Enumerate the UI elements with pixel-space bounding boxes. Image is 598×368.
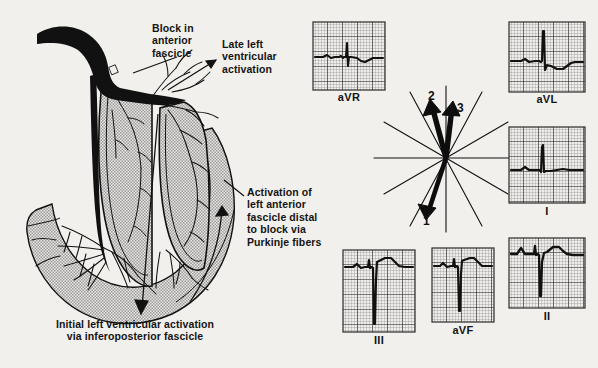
vector-label-3: 3 bbox=[457, 101, 464, 115]
ecg-panel-i bbox=[509, 127, 585, 203]
ecg-label-i: I bbox=[509, 205, 585, 217]
ventricular-cavities bbox=[99, 92, 209, 286]
ecg-label-ii: II bbox=[509, 310, 585, 322]
ecg-panel-iii bbox=[343, 250, 415, 332]
ecg-panel-avf bbox=[432, 248, 494, 322]
ecg-label-avl: aVL bbox=[509, 93, 585, 105]
ecg-panel-avr bbox=[313, 22, 385, 90]
annotation-initial-left-ventricular-activation: Initial left ventricular activation via … bbox=[56, 318, 214, 343]
leader-block bbox=[133, 57, 177, 73]
vector-diagram bbox=[368, 80, 528, 240]
figure-root: Block in anterior fascicle Late left ven… bbox=[0, 0, 598, 368]
ecg-panel-avl bbox=[509, 22, 585, 92]
ecg-label-avf: aVF bbox=[432, 324, 494, 336]
ecg-label-avr: aVR bbox=[313, 91, 385, 103]
vector-label-2: 2 bbox=[428, 89, 435, 103]
ecg-label-iii: III bbox=[343, 334, 415, 346]
annotation-block-in-anterior-fascicle: Block in anterior fascicle bbox=[152, 22, 194, 59]
annotation-late-left-ventricular-activation: Late left ventricular activation bbox=[222, 38, 277, 75]
ecg-panel-ii bbox=[509, 238, 585, 308]
mean-qrs-vectors bbox=[418, 99, 460, 220]
annotation-activation-of-left-anterior-fascicle: Activation of left anterior fascicle dis… bbox=[247, 186, 321, 248]
vector-label-1: 1 bbox=[423, 214, 430, 228]
block-marker bbox=[109, 65, 118, 75]
